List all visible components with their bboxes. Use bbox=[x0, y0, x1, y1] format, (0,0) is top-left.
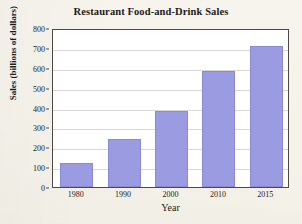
y-axis-tick-mark bbox=[46, 68, 49, 69]
x-axis-tick-label: 2010 bbox=[210, 190, 226, 199]
chart-title: Restaurant Food-and-Drink Sales bbox=[0, 6, 302, 17]
bar bbox=[155, 111, 188, 187]
y-axis-tick-label: 300 bbox=[33, 124, 45, 133]
x-axis-tick-label: 2015 bbox=[257, 190, 273, 199]
x-axis-tick-labels: 19801990200020102015 bbox=[52, 190, 289, 202]
y-axis-tick-labels: 0100200300400500600700800 bbox=[0, 29, 49, 188]
y-axis-tick-label: 600 bbox=[33, 64, 45, 73]
y-axis-tick-mark bbox=[46, 88, 49, 89]
y-axis-tick-mark bbox=[46, 128, 49, 129]
y-axis-tick-label: 800 bbox=[33, 25, 45, 34]
y-axis-tick-label: 700 bbox=[33, 44, 45, 53]
bar bbox=[250, 46, 283, 187]
y-axis-tick-mark bbox=[46, 148, 49, 149]
x-axis-tick-label: 1990 bbox=[115, 190, 131, 199]
y-axis-tick-label: 100 bbox=[33, 164, 45, 173]
plot-area bbox=[52, 29, 289, 188]
x-axis-tick-label: 2000 bbox=[163, 190, 179, 199]
y-axis-tick-mark bbox=[46, 29, 49, 30]
y-axis-tick-label: 0 bbox=[41, 184, 45, 193]
bar-series bbox=[53, 30, 288, 187]
y-axis-tick-mark bbox=[46, 168, 49, 169]
bar-chart-figure: Restaurant Food-and-Drink Sales Sales (b… bbox=[0, 0, 302, 224]
y-axis-tick-label: 200 bbox=[33, 144, 45, 153]
bar bbox=[60, 163, 93, 187]
x-axis-tick-label: 1980 bbox=[68, 190, 84, 199]
bar bbox=[202, 71, 235, 187]
y-axis-tick-mark bbox=[46, 48, 49, 49]
y-axis-tick-label: 400 bbox=[33, 104, 45, 113]
y-axis-tick-mark bbox=[46, 188, 49, 189]
bar bbox=[108, 139, 141, 187]
y-axis-tick-mark bbox=[46, 108, 49, 109]
x-axis-title: Year bbox=[52, 202, 289, 213]
y-axis-tick-label: 500 bbox=[33, 84, 45, 93]
